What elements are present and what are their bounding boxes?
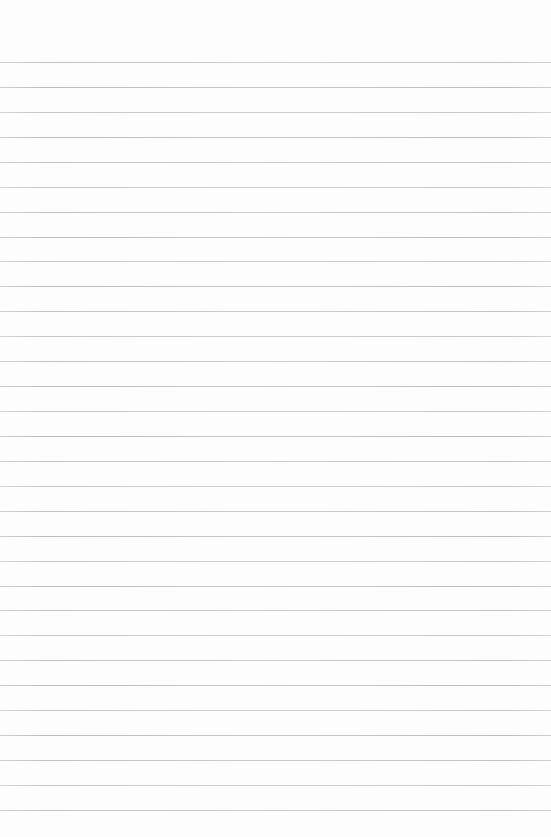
ruled-line <box>0 760 551 761</box>
ruled-line <box>0 586 551 587</box>
ruled-line <box>0 411 551 412</box>
ruled-line <box>0 212 551 213</box>
ruled-line <box>0 311 551 312</box>
ruled-line <box>0 536 551 537</box>
ruled-line <box>0 660 551 661</box>
ruled-line <box>0 162 551 163</box>
ruled-line <box>0 511 551 512</box>
ruled-line <box>0 436 551 437</box>
ruled-line <box>0 361 551 362</box>
ruled-line <box>0 336 551 337</box>
ruled-line <box>0 62 551 63</box>
ruled-line <box>0 710 551 711</box>
ruled-line <box>0 635 551 636</box>
ruled-line <box>0 561 551 562</box>
ruled-line <box>0 87 551 88</box>
ruled-line <box>0 810 551 811</box>
ruled-line <box>0 386 551 387</box>
ruled-line <box>0 785 551 786</box>
ruled-line <box>0 486 551 487</box>
ruled-paper-page <box>0 0 551 837</box>
ruled-line <box>0 237 551 238</box>
ruled-line <box>0 685 551 686</box>
ruled-line <box>0 187 551 188</box>
ruled-line <box>0 610 551 611</box>
ruled-line <box>0 461 551 462</box>
ruled-line <box>0 261 551 262</box>
ruled-line <box>0 112 551 113</box>
ruled-line <box>0 735 551 736</box>
ruled-line <box>0 137 551 138</box>
ruled-line <box>0 286 551 287</box>
